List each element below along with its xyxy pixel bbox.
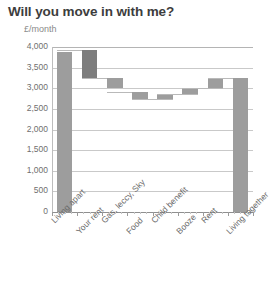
- waterfall-connector: [157, 94, 198, 95]
- bar-gas-leccy-sky: [107, 78, 123, 88]
- x-axis-minor-tick: [83, 212, 84, 214]
- x-axis-tick: [153, 212, 154, 216]
- bar-living-apart: [57, 52, 73, 212]
- x-axis-minor-tick: [140, 212, 141, 214]
- x-axis-minor-tick: [222, 212, 223, 214]
- gridline: [52, 150, 253, 151]
- y-axis-tick-label: 2,500: [0, 104, 48, 113]
- x-axis-minor-tick: [184, 212, 185, 214]
- x-axis-minor-tick: [196, 212, 197, 214]
- plot-area: [52, 47, 253, 212]
- bar-rent: [208, 78, 224, 88]
- x-axis-minor-tick: [190, 212, 191, 214]
- gridline: [52, 47, 253, 48]
- x-axis-tick: [178, 212, 179, 216]
- x-axis-minor-tick: [159, 212, 160, 214]
- x-axis-minor-tick: [209, 212, 210, 214]
- x-axis-minor-tick: [171, 212, 172, 214]
- x-axis-tick: [52, 212, 53, 216]
- bar-your-rent: [82, 50, 98, 78]
- x-axis-tick-labels: Living apartYour rentGas, leccy, SkyFood…: [0, 212, 269, 294]
- x-axis-minor-tick: [134, 212, 135, 214]
- bar-living-together: [233, 78, 249, 212]
- x-axis-minor-tick: [115, 212, 116, 214]
- x-axis-minor-tick: [165, 212, 166, 214]
- x-axis-minor-tick: [71, 212, 72, 214]
- x-axis-minor-tick: [90, 212, 91, 214]
- gridline: [52, 171, 253, 172]
- x-axis-minor-tick: [58, 212, 59, 214]
- y-axis-tick-label: 1,500: [0, 145, 48, 154]
- x-axis-minor-tick: [96, 212, 97, 214]
- x-axis-minor-tick: [146, 212, 147, 214]
- x-axis-minor-tick: [247, 212, 248, 214]
- x-axis-tick: [253, 212, 254, 216]
- x-axis-tick-label: Food: [124, 215, 145, 236]
- x-axis-minor-tick: [65, 212, 66, 214]
- y-axis-tick-label: 4,000: [0, 42, 48, 51]
- y-axis-tick-label: 3,000: [0, 83, 48, 92]
- x-axis-tick: [203, 212, 204, 216]
- x-axis-tick: [77, 212, 78, 216]
- x-axis-minor-tick: [234, 212, 235, 214]
- x-axis-minor-tick: [121, 212, 122, 214]
- gridline: [52, 109, 253, 110]
- x-axis-tick: [127, 212, 128, 216]
- y-axis-tick-label: 3,500: [0, 63, 48, 72]
- y-axis-tick-label: 500: [0, 186, 48, 195]
- waterfall-chart: Will you move in with me? £/month 4,0003…: [0, 0, 269, 294]
- y-axis-line: [52, 47, 53, 213]
- x-axis-minor-tick: [240, 212, 241, 214]
- x-axis-tick: [102, 212, 103, 216]
- x-axis-minor-tick: [109, 212, 110, 214]
- x-axis-minor-tick: [215, 212, 216, 214]
- gridline: [52, 130, 253, 131]
- bar-food: [132, 92, 148, 98]
- y-axis-tick-label: 1,000: [0, 166, 48, 175]
- y-axis-tick-label: 2,000: [0, 125, 48, 134]
- bar-booze: [182, 88, 198, 93]
- waterfall-connector: [132, 99, 173, 100]
- x-axis-tick: [228, 212, 229, 216]
